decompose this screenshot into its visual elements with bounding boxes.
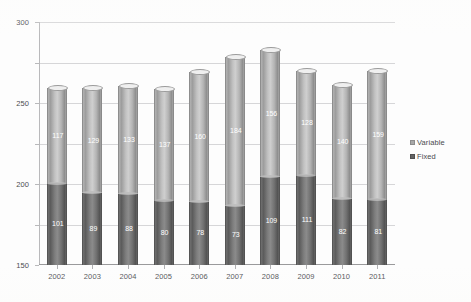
bar-top-cap bbox=[48, 85, 68, 91]
bar-value-label-variable: 129 bbox=[83, 137, 103, 145]
legend-item-variable: Variable bbox=[410, 136, 468, 148]
bar-segment-fixed: 101 bbox=[47, 183, 67, 265]
y-tick-mark: 0 bbox=[35, 265, 39, 266]
x-tick-label: 2005 bbox=[144, 272, 184, 281]
bar-segment-fixed: 81 bbox=[367, 199, 387, 265]
x-tick-label: 2006 bbox=[179, 272, 219, 281]
bars-layer: 1011178912988133801377816073184109156111… bbox=[39, 22, 395, 265]
bar-top-cap bbox=[297, 68, 317, 74]
bar-group: 81159 bbox=[367, 71, 387, 265]
chart-legend: Variable Fixed bbox=[410, 136, 468, 164]
y-tick-label: 150 bbox=[16, 261, 29, 270]
x-tick-label: 2004 bbox=[108, 272, 148, 281]
bar-value-label-fixed: 81 bbox=[368, 228, 388, 236]
bar-top-cap bbox=[119, 83, 139, 89]
bar-group: 101117 bbox=[47, 88, 67, 265]
y-tick-label: 200 bbox=[16, 180, 29, 189]
bar-value-label-fixed: 89 bbox=[83, 225, 103, 233]
x-tick-mark bbox=[342, 265, 343, 269]
bar-segment-fixed: 88 bbox=[118, 194, 138, 265]
bar-segment-seam bbox=[154, 199, 174, 202]
x-tick-mark bbox=[270, 265, 271, 269]
bar-value-label-fixed: 80 bbox=[155, 229, 175, 237]
x-tick-label: 2002 bbox=[37, 272, 77, 281]
bar-segment-variable: 129 bbox=[82, 88, 102, 192]
bar-group: 73184 bbox=[225, 57, 245, 265]
bar-value-label-fixed: 109 bbox=[261, 217, 281, 225]
legend-label-variable: Variable bbox=[417, 138, 445, 147]
y-tick-label: 300 bbox=[16, 18, 29, 27]
bar-value-label-variable: 184 bbox=[226, 127, 246, 135]
bar-segment-variable: 128 bbox=[296, 71, 316, 175]
bar-group: 88133 bbox=[118, 86, 138, 265]
x-tick-label: 2010 bbox=[322, 272, 362, 281]
bar-segment-variable: 140 bbox=[332, 85, 352, 198]
x-tick-mark bbox=[57, 265, 58, 269]
bar-segment-fixed: 111 bbox=[296, 175, 316, 265]
bar-segment-variable: 159 bbox=[367, 71, 387, 200]
bar-segment-variable: 137 bbox=[154, 89, 174, 200]
bar-value-label-variable: 133 bbox=[119, 136, 139, 144]
bar-segment-fixed: 78 bbox=[189, 202, 209, 265]
square-light-icon bbox=[410, 140, 415, 145]
bar-group: 89129 bbox=[82, 88, 102, 265]
bar-segment-variable: 117 bbox=[47, 88, 67, 183]
bar-top-cap bbox=[261, 47, 281, 53]
bar-segment-variable: 133 bbox=[118, 86, 138, 194]
bar-group: 82140 bbox=[332, 85, 352, 265]
x-tick-mark bbox=[92, 265, 93, 269]
x-tick-mark bbox=[199, 265, 200, 269]
bar-segment-fixed: 109 bbox=[260, 177, 280, 265]
bar-value-label-fixed: 73 bbox=[226, 231, 246, 239]
bar-top-cap bbox=[333, 82, 353, 88]
bar-value-label-fixed: 88 bbox=[119, 225, 139, 233]
x-tick-label: 2011 bbox=[357, 272, 397, 281]
title-strip bbox=[0, 0, 471, 14]
bar-segment-seam bbox=[367, 198, 387, 201]
square-dark-icon bbox=[410, 154, 415, 159]
bar-value-label-variable: 117 bbox=[48, 132, 68, 140]
legend-label-fixed: Fixed bbox=[417, 152, 436, 161]
x-tick-mark bbox=[235, 265, 236, 269]
bar-group: 109156 bbox=[260, 50, 280, 265]
bar-segment-fixed: 82 bbox=[332, 199, 352, 265]
bar-group: 78160 bbox=[189, 72, 209, 265]
x-tick-label: 2003 bbox=[72, 272, 112, 281]
bar-top-cap bbox=[226, 54, 246, 60]
plot-area: 050100150200250300 101117891298813380137… bbox=[39, 22, 395, 265]
bar-segment-seam bbox=[47, 182, 67, 185]
bar-top-cap bbox=[190, 69, 210, 75]
bar-top-cap bbox=[83, 85, 103, 91]
x-tick-mark bbox=[164, 265, 165, 269]
chart-container: 050100150200250300 101117891298813380137… bbox=[0, 0, 471, 302]
x-tick-label: 2008 bbox=[250, 272, 290, 281]
bar-value-label-fixed: 82 bbox=[333, 228, 353, 236]
bar-value-label-fixed: 78 bbox=[190, 229, 210, 237]
bar-segment-fixed: 80 bbox=[154, 200, 174, 265]
legend-item-fixed: Fixed bbox=[410, 150, 468, 162]
bar-group: 80137 bbox=[154, 89, 174, 265]
bar-value-label-fixed: 101 bbox=[48, 220, 68, 228]
x-tick-mark bbox=[377, 265, 378, 269]
bar-value-label-variable: 159 bbox=[368, 131, 388, 139]
bar-group: 111128 bbox=[296, 71, 316, 265]
bar-value-label-variable: 140 bbox=[333, 138, 353, 146]
bar-segment-fixed: 89 bbox=[82, 193, 102, 265]
bar-value-label-variable: 156 bbox=[261, 110, 281, 118]
bar-value-label-variable: 128 bbox=[297, 119, 317, 127]
bar-value-label-variable: 160 bbox=[190, 133, 210, 141]
x-tick-mark bbox=[128, 265, 129, 269]
bar-segment-fixed: 73 bbox=[225, 206, 245, 265]
y-tick-label: 250 bbox=[16, 99, 29, 108]
bar-segment-seam bbox=[296, 174, 316, 177]
bar-segment-variable: 156 bbox=[260, 50, 280, 176]
bar-value-label-fixed: 111 bbox=[297, 216, 317, 224]
x-tick-mark bbox=[306, 265, 307, 269]
bar-value-label-variable: 137 bbox=[155, 141, 175, 149]
bar-top-cap bbox=[155, 86, 175, 92]
bar-top-cap bbox=[368, 68, 388, 74]
bar-segment-variable: 184 bbox=[225, 57, 245, 206]
x-tick-label: 2007 bbox=[215, 272, 255, 281]
x-tick-label: 2009 bbox=[286, 272, 326, 281]
bar-segment-variable: 160 bbox=[189, 72, 209, 202]
